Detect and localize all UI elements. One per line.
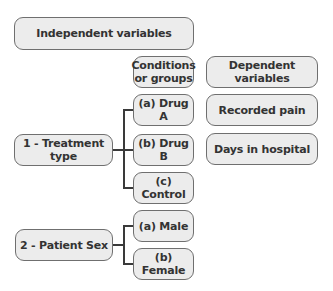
iv-treatment-type: 1 - Treatment type (14, 134, 113, 166)
connector-treatment-a (123, 109, 133, 111)
condition-female-label: (b) Female (134, 251, 193, 277)
condition-control: (c) Control (133, 172, 194, 204)
independent-variables-header: Independent variables (14, 17, 194, 50)
connector-sex-a (123, 225, 133, 227)
dv-days-in-hospital: Days in hospital (206, 133, 318, 165)
conditions-header: Conditions or groups (133, 56, 194, 88)
condition-drug-a: (a) Drug A (133, 94, 194, 126)
dv-days-in-hospital-label: Days in hospital (214, 143, 310, 156)
connector-sex-vertical (123, 225, 125, 265)
iv-patient-sex-label: 2 - Patient Sex (20, 239, 108, 252)
condition-drug-b-label: (b) Drug B (134, 137, 193, 163)
dependent-variables-header: Dependent variables (206, 56, 318, 88)
dv-recorded-pain-label: Recorded pain (219, 104, 306, 117)
conditions-header-label: Conditions or groups (131, 59, 195, 85)
condition-male-label: (a) Male (139, 220, 188, 233)
condition-female: (b) Female (133, 248, 194, 280)
iv-treatment-type-label: 1 - Treatment type (15, 137, 112, 163)
connector-treatment-b (123, 149, 133, 151)
condition-drug-b: (b) Drug B (133, 134, 194, 166)
connector-sex-b (123, 263, 133, 265)
connector-treatment-c (123, 187, 133, 189)
independent-header-label: Independent variables (36, 27, 171, 40)
iv-patient-sex: 2 - Patient Sex (15, 229, 113, 261)
condition-drug-a-label: (a) Drug A (134, 97, 193, 123)
dependent-header-label: Dependent variables (207, 59, 317, 85)
dv-recorded-pain: Recorded pain (206, 94, 318, 126)
condition-control-label: (c) Control (134, 175, 193, 201)
condition-male: (a) Male (133, 210, 194, 242)
